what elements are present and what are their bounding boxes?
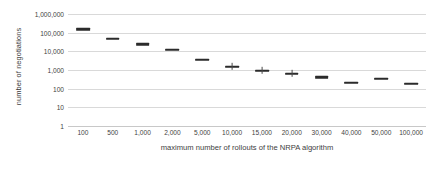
gridline [68, 33, 426, 34]
y-axis-tick-label: 1 [8, 123, 64, 130]
y-axis-tick-label: 1,000,000 [8, 11, 64, 18]
error-bar [232, 63, 233, 70]
x-axis-tick-label: 5,000 [194, 129, 211, 136]
chart-container: number of negotiations 1,000,000100,0001… [0, 0, 434, 180]
data-point-marker [255, 70, 269, 72]
gridline [68, 51, 426, 52]
y-axis-tick-labels: 1,000,000100,00010,0001,000100101 [6, 0, 64, 180]
x-axis-tick-label: 100 [77, 129, 88, 136]
gridline [68, 14, 426, 15]
plot-area [68, 14, 426, 126]
gridline [68, 107, 426, 108]
error-bar [261, 67, 262, 74]
x-axis-tick-labels: 1005001,0002,0005,00010,00015,00020,0003… [68, 129, 426, 143]
data-point-marker [404, 83, 418, 85]
data-point-marker [315, 76, 329, 78]
y-axis-tick-label: 100 [8, 85, 64, 92]
x-axis-tick-label: 500 [107, 129, 118, 136]
data-point-marker [136, 43, 150, 45]
y-axis-tick-label: 10 [8, 104, 64, 111]
y-axis-tick-label: 10,000 [8, 48, 64, 55]
x-axis-tick-label: 1,000 [134, 129, 151, 136]
data-point-marker [76, 28, 90, 30]
data-point-marker [106, 37, 120, 39]
data-point-marker [225, 66, 239, 68]
error-bar [291, 70, 292, 77]
x-axis-tick-label: 30,000 [311, 129, 331, 136]
x-axis-title: maximum number of rollouts of the NRPA a… [68, 143, 426, 152]
x-axis-tick-label: 40,000 [341, 129, 361, 136]
x-axis-tick-label: 100,000 [399, 129, 423, 136]
data-point-marker [374, 77, 388, 79]
y-axis-tick-label: 1,000 [8, 67, 64, 74]
data-point-marker [285, 73, 299, 75]
x-axis-tick-label: 50,000 [371, 129, 391, 136]
data-point-marker [195, 58, 209, 60]
x-axis-tick-label: 20,000 [282, 129, 302, 136]
data-point-marker [345, 81, 359, 83]
x-axis-tick-label: 10,000 [222, 129, 242, 136]
x-axis-tick-label: 2,000 [164, 129, 181, 136]
gridline [68, 70, 426, 71]
gridline [68, 89, 426, 90]
gridline [68, 126, 426, 127]
x-axis-tick-label: 15,000 [252, 129, 272, 136]
y-axis-tick-label: 100,000 [8, 29, 64, 36]
